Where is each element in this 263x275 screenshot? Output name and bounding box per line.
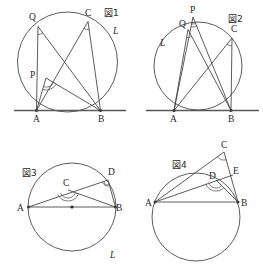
circle-fig1: [18, 12, 118, 112]
point-dot-fig3-A: [27, 206, 30, 209]
segment-fig1-PB: [46, 78, 101, 111]
point-label-fig4-A: A: [145, 198, 152, 208]
angle-mark-fig1-C: [84, 28, 89, 29]
figure-caption-fig3: 図3: [22, 168, 37, 178]
angle-mark-fig2-P: [192, 23, 196, 24]
figures-root: ABCQPL図1ABCQPL図2ABDCL図3ABCDE図4: [14, 5, 259, 261]
circle-fig4: [152, 173, 240, 261]
angle-mark-fig2-P-inner: [191, 26, 197, 27]
point-label-fig4-B: B: [241, 198, 247, 208]
angle-mark-fig1-Q: [38, 33, 43, 35]
segment-fig1-QA: [37, 27, 39, 111]
figure-caption-fig1: 図1: [104, 8, 119, 18]
figure-fig1: ABCQPL図1: [14, 8, 126, 124]
line-label-fig3: L: [109, 250, 115, 260]
point-label-fig3-A: A: [17, 203, 24, 213]
segment-fig2-QB: [188, 30, 231, 111]
line-label-fig1: L: [112, 26, 118, 36]
circle-fig2: [154, 22, 242, 110]
point-label-fig1-C: C: [85, 8, 91, 18]
point-label-fig2-A: A: [170, 114, 177, 124]
figure-fig3: ABDCL図3: [17, 163, 122, 260]
point-dot-fig4-B: [237, 201, 240, 204]
point-label-fig2-B: B: [228, 114, 234, 124]
segment-fig2-CA: [174, 38, 232, 111]
point-label-fig2-C: C: [231, 24, 237, 34]
point-label-fig4-E: E: [233, 166, 239, 176]
angle-mark-fig3-C-inner: [58, 194, 78, 201]
segment-fig2-CB: [231, 38, 232, 111]
figure-fig2: ABCQPL図2: [146, 5, 259, 124]
figure-sheet: ABCQPL図1ABCQPL図2ABDCL図3ABCDE図4: [0, 0, 263, 275]
point-label-fig3-B: B: [116, 203, 122, 213]
point-dot-fig1-A: [35, 109, 38, 112]
point-dot-fig2-A: [173, 109, 176, 112]
point-label-fig4-C: C: [221, 140, 227, 150]
point-label-fig2-Q: Q: [179, 19, 186, 29]
segment-fig4-AE: [155, 175, 233, 202]
angle-mark-fig2-C: [227, 44, 232, 46]
point-label-fig1-Q: Q: [29, 12, 36, 22]
figures-canvas: ABCQPL図1ABCQPL図2ABDCL図3ABCDE図4: [0, 0, 263, 275]
figure-caption-fig4: 図4: [172, 160, 187, 170]
segment-fig3-DB: [108, 180, 116, 207]
point-label-fig3-C: C: [63, 178, 69, 188]
point-dot-fig1-B: [99, 109, 102, 112]
segment-fig2-PA: [174, 17, 193, 111]
segment-fig1-QB: [38, 27, 101, 111]
figure-caption-fig2: 図2: [228, 14, 243, 24]
figure-fig4: ABCDE図4: [145, 140, 247, 261]
segment-fig1-CB: [88, 22, 101, 111]
point-label-fig1-B: B: [98, 114, 104, 124]
angle-mark-fig4-C: [218, 157, 227, 160]
point-label-fig1-P: P: [30, 70, 35, 80]
center-dot-fig3: [70, 205, 73, 208]
segment-fig1-PA: [37, 78, 47, 111]
point-label-fig3-D: D: [108, 167, 115, 177]
point-label-fig4-D: D: [209, 171, 216, 181]
point-dot-fig4-A: [154, 201, 157, 204]
point-dot-fig2-B: [230, 109, 233, 112]
line-label-fig2: L: [159, 38, 165, 48]
point-label-fig2-P: P: [190, 5, 195, 15]
point-label-fig1-A: A: [33, 114, 40, 124]
